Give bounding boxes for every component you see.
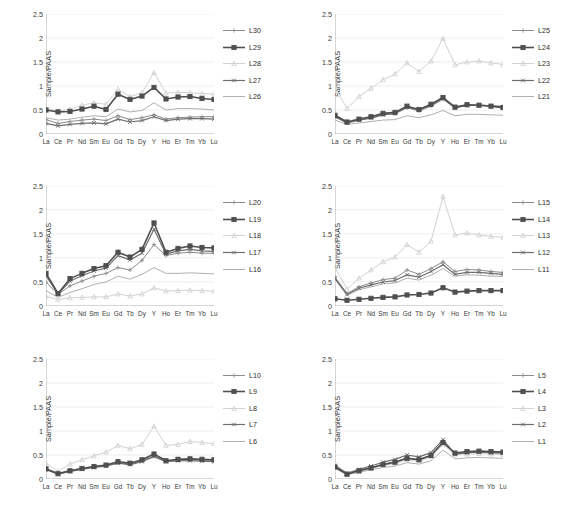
y-axis-tick: 0.5: [322, 106, 332, 115]
x-axis-tick: Ho: [451, 310, 459, 317]
x-axis-tick: Lu: [499, 138, 506, 145]
series-marker: [140, 94, 144, 98]
legend-swatch: [511, 59, 535, 68]
series-marker: [56, 110, 60, 114]
y-axis-tick: 2: [39, 378, 43, 387]
chart-legend: L15L14L13L12L11: [511, 198, 550, 273]
legend-label: L9: [249, 387, 257, 396]
y-axis-tick: 0.5: [33, 278, 43, 287]
legend-item[interactable]: L2: [511, 420, 546, 429]
x-axis-tick: Sm: [378, 310, 388, 317]
series-marker: [128, 461, 132, 465]
series-marker: [80, 279, 84, 283]
legend-item[interactable]: L16: [222, 265, 261, 274]
legend-item[interactable]: L1: [511, 437, 546, 446]
legend-item[interactable]: L11: [511, 265, 550, 274]
y-axis-tick: 1: [39, 426, 43, 435]
legend-label: L7: [249, 420, 257, 429]
legend-item[interactable]: L19: [222, 215, 261, 224]
x-axis-tick: Tb: [415, 483, 422, 490]
x-axis-tick: Lu: [499, 310, 506, 317]
series-marker: [429, 453, 433, 457]
x-axis-tick: Nd: [367, 138, 375, 145]
chart-panel-3: Sample/PAAS00.511.522.5LaCePrNdSmEuGdTbD…: [0, 172, 289, 344]
legend-swatch: [511, 198, 535, 207]
series-marker: [357, 468, 361, 472]
x-axis-tick: Y: [441, 138, 445, 145]
legend-label: L20: [249, 198, 261, 207]
series-marker: [417, 457, 421, 461]
series-marker: [381, 111, 385, 115]
series-marker: [489, 104, 493, 108]
series-marker: [441, 95, 445, 99]
legend-item[interactable]: L28: [222, 59, 261, 68]
chart-panel-2: Sample/PAAS00.511.522.5LaCePrNdSmEuGdTbD…: [289, 0, 578, 172]
series-marker: [128, 97, 132, 101]
plot-canvas: [335, 359, 503, 479]
legend-item[interactable]: L12: [511, 248, 550, 257]
series-marker: [68, 277, 72, 281]
legend-item[interactable]: L15: [511, 198, 550, 207]
legend-label: L6: [249, 437, 257, 446]
legend-swatch: [222, 198, 246, 207]
series-marker: [92, 117, 96, 121]
y-axis-tick: 2: [39, 34, 43, 43]
legend-item[interactable]: L27: [222, 76, 261, 85]
legend-item[interactable]: L3: [511, 404, 546, 413]
legend-label: L23: [538, 59, 550, 68]
x-axis-tick: Gd: [403, 483, 412, 490]
series-marker: [381, 296, 385, 300]
legend-item[interactable]: L29: [222, 43, 261, 52]
legend-item[interactable]: L20: [222, 198, 261, 207]
legend-item[interactable]: L18: [222, 231, 261, 240]
x-axis-tick: Pr: [356, 483, 362, 490]
legend-label: L16: [249, 265, 261, 274]
plot-canvas: [335, 14, 503, 134]
legend-item[interactable]: L14: [511, 215, 550, 224]
legend-item[interactable]: L8: [222, 404, 261, 413]
legend-item[interactable]: L23: [511, 59, 550, 68]
legend-item[interactable]: L10: [222, 371, 261, 380]
legend-swatch: [222, 387, 246, 396]
legend-item[interactable]: L17: [222, 248, 261, 257]
series-marker: [369, 115, 373, 119]
legend-swatch: [222, 371, 246, 380]
x-axis-tick: Ho: [162, 310, 170, 317]
series-marker: [465, 449, 469, 453]
legend-label: L15: [538, 198, 550, 207]
series-marker: [104, 272, 108, 276]
legend-item[interactable]: L13: [511, 231, 550, 240]
legend-item[interactable]: L30: [222, 26, 261, 35]
series-marker: [441, 286, 445, 290]
series-marker: [345, 472, 349, 476]
x-axis-tick: Eu: [102, 138, 110, 145]
series-marker: [152, 452, 156, 456]
legend-item[interactable]: L24: [511, 43, 550, 52]
series-marker: [128, 255, 132, 259]
legend-item[interactable]: L7: [222, 420, 261, 429]
legend-item[interactable]: L6: [222, 437, 261, 446]
legend-item[interactable]: L22: [511, 76, 550, 85]
x-axis-tick: Yb: [487, 310, 495, 317]
x-axis-tick: Tm: [185, 138, 194, 145]
legend-item[interactable]: L21: [511, 92, 550, 101]
legend-label: L11: [538, 265, 549, 274]
legend-swatch: [222, 59, 246, 68]
series-marker: [417, 293, 421, 297]
x-axis-tick: Gd: [114, 138, 123, 145]
legend-item[interactable]: L26: [222, 92, 261, 101]
x-axis-tick: La: [42, 310, 49, 317]
legend-item[interactable]: L4: [511, 387, 546, 396]
legend-item[interactable]: L9: [222, 387, 261, 396]
series-marker: [104, 107, 108, 111]
x-axis-tick: Ho: [162, 483, 170, 490]
x-axis-tick: Dy: [427, 483, 435, 490]
x-axis-tick: Eu: [102, 310, 110, 317]
x-axis-tick: Ho: [451, 138, 459, 145]
legend-item[interactable]: L25: [511, 26, 550, 35]
x-axis-tick: Nd: [78, 138, 86, 145]
legend-item[interactable]: L5: [511, 371, 546, 380]
series-marker: [357, 117, 361, 121]
legend-label: L28: [249, 59, 261, 68]
x-axis-tick: Yb: [198, 310, 206, 317]
